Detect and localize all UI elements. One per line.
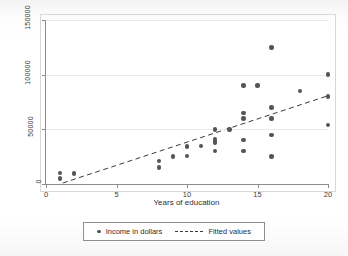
legend-label-fitted: Fitted values (208, 227, 251, 236)
scatter-point (326, 123, 330, 127)
y-axis-tick-label: 100000 (15, 69, 40, 76)
scatter-point (213, 127, 217, 131)
scatter-plot-figure: 05000010000015000005101520 Years of educ… (0, 0, 348, 256)
scatter-point (269, 116, 273, 120)
y-axis-tick (42, 129, 46, 130)
scatter-point (326, 94, 330, 98)
fitted-values-line (46, 20, 328, 184)
x-axis-tick (328, 184, 329, 188)
scatter-point (171, 154, 175, 158)
scatter-point (241, 116, 245, 120)
legend-item-fitted: Fitted values (175, 227, 251, 236)
scatter-point (227, 127, 231, 131)
legend-item-income: Income in dollars (97, 227, 162, 236)
y-gridline (46, 20, 328, 21)
scatter-point (157, 165, 161, 169)
x-axis-tick (187, 184, 188, 188)
y-gridline (46, 129, 328, 130)
y-gridline (46, 75, 328, 76)
y-axis-tick-label: 150000 (15, 14, 40, 21)
scatter-point (255, 83, 259, 87)
scatter-point (269, 133, 273, 137)
scatter-point (58, 176, 62, 180)
x-axis-tick (258, 184, 259, 188)
y-axis-tick-label: 50000 (20, 123, 40, 130)
scatter-point (241, 149, 245, 153)
legend-dot-icon (97, 230, 101, 234)
scatter-point (241, 83, 245, 87)
y-axis-tick-label: 0 (36, 178, 40, 185)
y-axis-tick (42, 20, 46, 21)
legend-dashed-line-icon (175, 231, 203, 232)
plot-area: 05000010000015000005101520 (45, 20, 328, 185)
x-axis-tick (117, 184, 118, 188)
scatter-point (269, 154, 273, 158)
chart-legend: Income in dollars Fitted values (83, 222, 265, 241)
scatter-point (269, 105, 273, 109)
scatter-point (269, 45, 273, 49)
y-axis-tick (42, 75, 46, 76)
scatter-point (326, 72, 330, 76)
scatter-point (241, 111, 245, 115)
x-axis-tick (46, 184, 47, 188)
x-axis-title: Years of education (45, 198, 328, 207)
legend-label-income: Income in dollars (106, 227, 163, 236)
